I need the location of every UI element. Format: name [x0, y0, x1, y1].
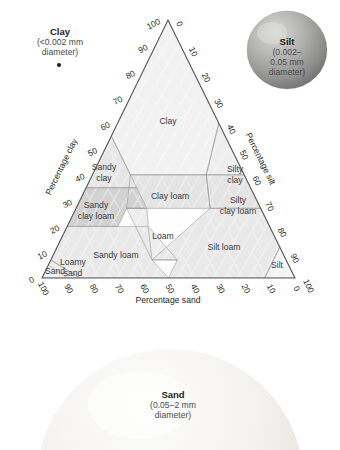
clay-particle-dot-icon	[57, 63, 61, 67]
clay-legend-line2: diameter)	[14, 47, 106, 57]
sand-legend-line2: diameter)	[118, 410, 228, 420]
silt-legend-line3: diameter)	[244, 67, 330, 77]
figure-root: 0102030405060708090100010203040506070809…	[0, 0, 340, 450]
silt-legend-line1: (0.002–	[244, 47, 330, 57]
silt-legend: Silt (0.002– 0.05 mm diameter)	[244, 36, 330, 78]
sand-legend-title: Sand	[118, 389, 228, 400]
clay-legend: Clay (<0.002 mm diameter)	[14, 26, 106, 57]
sand-legend-line1: (0.05–2 mm	[118, 400, 228, 410]
sand-legend: Sand (0.05–2 mm diameter)	[118, 389, 228, 420]
clay-legend-title: Clay	[14, 26, 106, 37]
clay-legend-line1: (<0.002 mm	[14, 37, 106, 47]
silt-legend-line2: 0.05 mm	[244, 57, 330, 67]
silt-legend-title: Silt	[244, 36, 330, 47]
